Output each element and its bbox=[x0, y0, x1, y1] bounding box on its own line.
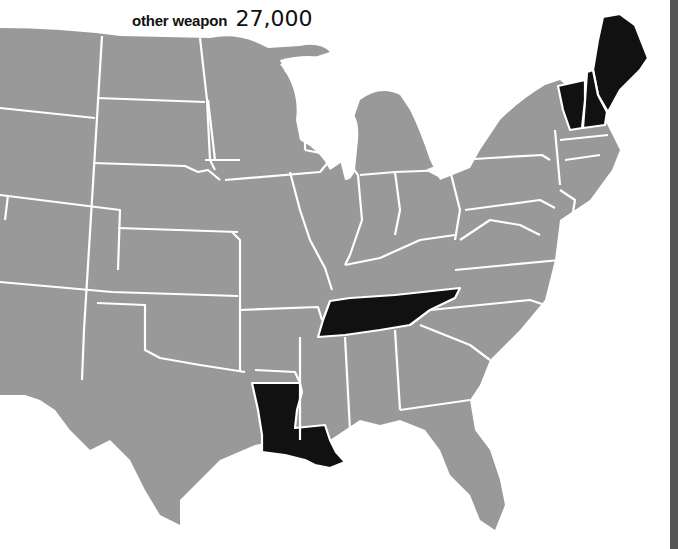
right-edge-bar bbox=[670, 0, 678, 549]
state-maine bbox=[593, 14, 648, 112]
lake-superior bbox=[280, 56, 345, 80]
us-map bbox=[0, 0, 670, 549]
